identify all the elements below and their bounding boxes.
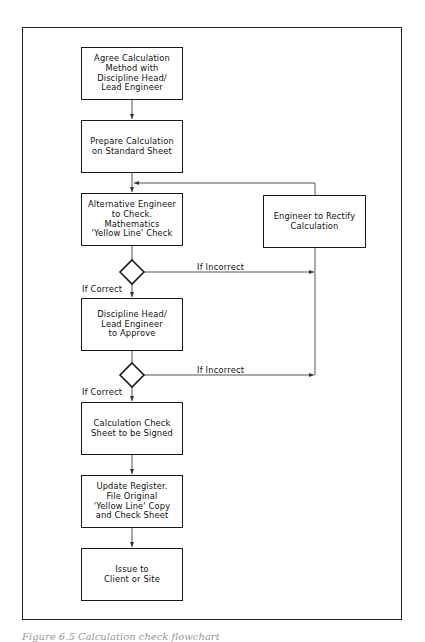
decision-1-correct-label: If Correct	[82, 285, 122, 294]
step-issue-to-client: Issue to Client or Site	[81, 548, 183, 601]
step-update-register: Update Register. File Original 'Yellow L…	[81, 475, 183, 528]
step-engineer-rectify: Engineer to Rectify Calculation	[263, 195, 366, 248]
decision-diamond-1	[120, 260, 144, 284]
decision-2-correct-label: If Correct	[82, 388, 122, 397]
step-check-sheet-signed: Calculation Check Sheet to be Signed	[81, 402, 183, 455]
connector-lines	[0, 0, 425, 642]
decision-2-incorrect-label: If Incorrect	[197, 366, 244, 375]
step-head-approve: Discipline Head/ Lead Engineer to Approv…	[81, 298, 183, 351]
step-prepare-calculation: Prepare Calculation on Standard Sheet	[81, 120, 183, 173]
step-agree-calculation-method: Agree Calculation Method with Discipline…	[81, 47, 183, 100]
decision-diamond-2	[120, 363, 144, 387]
step-alternative-engineer-check: Alternative Engineer to Check. Mathemati…	[81, 193, 183, 246]
figure-caption: Figure 6.5 Calculation check flowchart	[22, 631, 220, 642]
decision-1-incorrect-label: If Incorrect	[197, 263, 244, 272]
